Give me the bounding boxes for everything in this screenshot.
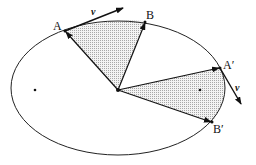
label-B-prime: B′ — [213, 122, 224, 136]
label-B: B — [146, 8, 154, 22]
swept-area-top — [65, 20, 145, 90]
sun-focus-point — [116, 88, 120, 92]
center-dot-right — [199, 89, 202, 92]
label-v-right: v — [235, 82, 240, 93]
label-v-top: v — [91, 6, 96, 17]
kepler-diagram: A B A′ B′ v v — [0, 0, 256, 165]
label-A: A — [53, 19, 62, 33]
point-A-prime — [219, 67, 222, 70]
label-A-prime: A′ — [223, 58, 235, 72]
empty-focus-point — [34, 89, 37, 92]
point-A — [64, 30, 67, 33]
